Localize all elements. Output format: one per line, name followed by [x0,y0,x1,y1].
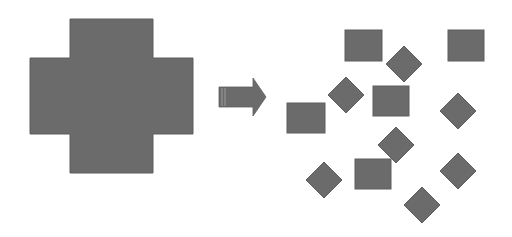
right-arrow-icon [219,78,266,116]
diagram-canvas [0,0,512,237]
fragment-diamond [306,162,342,198]
fragment-diamond [404,187,440,223]
fragment-square [355,159,391,189]
cross-shape [30,19,193,173]
cross-polygon [30,19,193,173]
fragment-square [287,103,325,133]
fragment-diamond [378,127,414,163]
fragment-diamond [440,93,476,129]
fragment-square [448,30,484,61]
scattered-fragments [287,30,484,223]
fragment-square [373,86,409,116]
fragment-square [345,30,382,61]
fragment-diamond [440,153,476,189]
arrow-polygon [219,78,266,116]
fragment-diamond [328,77,364,113]
fragment-diamond [386,46,422,82]
